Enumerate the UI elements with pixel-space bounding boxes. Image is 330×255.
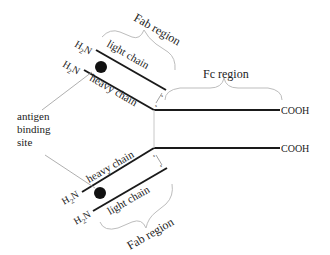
- h2n-upper-light: H2N: [72, 38, 95, 59]
- antigen-label: site: [17, 136, 32, 148]
- antibody-diagram: s s s s antigen binding site H2N H2N H2N…: [0, 0, 330, 255]
- cooh-label-top: COOH: [281, 105, 309, 116]
- svg-text:H2N: H2N: [60, 58, 83, 79]
- fab-region-label-bottom: Fab region: [125, 215, 177, 253]
- diagram-canvas: s s s s antigen binding site H2N H2N H2N…: [0, 0, 330, 255]
- disulfide-s: s: [160, 163, 162, 168]
- svg-text:H2N: H2N: [72, 38, 95, 59]
- heavy-chain-label-bottom: heavy chain: [84, 148, 136, 185]
- fc-brace: [165, 78, 282, 100]
- h2n-upper-heavy: H2N: [60, 58, 83, 79]
- light-chain-label-top: light chain: [105, 37, 152, 71]
- antigen-binding-site-dot-bottom: [94, 187, 106, 199]
- disulfide-s: s: [153, 153, 155, 158]
- h2n-lower-light: H2N: [72, 208, 95, 229]
- antigen-pointer-top: [42, 72, 92, 110]
- fc-region-label: Fc region: [203, 67, 249, 81]
- cooh-label-bottom: COOH: [281, 143, 309, 154]
- antigen-label: antigen: [17, 110, 50, 122]
- antigen-binding-site-dot-top: [95, 61, 107, 73]
- antigen-label: binding: [17, 123, 51, 135]
- svg-text:H2N: H2N: [72, 208, 95, 229]
- heavy-chain-label-top: heavy chain: [88, 71, 140, 108]
- svg-text:H2N: H2N: [60, 188, 83, 209]
- fab-region-label-top: Fab region: [132, 10, 184, 48]
- disulfide-s: s: [161, 93, 163, 98]
- disulfide-s: s: [155, 103, 157, 108]
- h2n-lower-heavy: H2N: [60, 188, 83, 209]
